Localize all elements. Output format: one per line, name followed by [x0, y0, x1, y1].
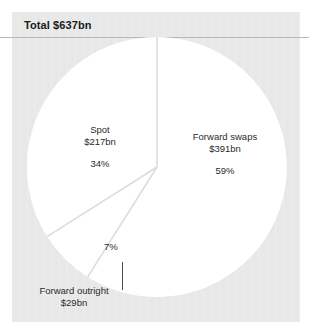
- pie-label-spot-name: Spot: [90, 124, 110, 135]
- pie-label-forward-swaps-name: Forward swaps: [193, 131, 257, 142]
- pie-label-forward-outright-value: $29bn: [61, 297, 87, 308]
- pie-label-forward-outright: Forward outright $29bn: [22, 285, 126, 308]
- pie-label-forward-outright-percent: 7%: [104, 241, 130, 253]
- pie-label-forward-swaps: Forward swaps $391bn 59%: [178, 131, 272, 177]
- pie-label-spot-percent: 34%: [60, 158, 140, 170]
- pie-chart-figure: Total $637bn Spot $217bn 34% Forward swa…: [0, 0, 309, 335]
- pie-label-spot-value: $217bn: [84, 136, 116, 147]
- pie-label-forward-outright-name: Forward outright: [39, 285, 108, 296]
- pie-label-spot: Spot $217bn 34%: [60, 124, 140, 170]
- pie-label-forward-swaps-percent: 59%: [178, 165, 272, 177]
- pie-label-forward-swaps-value: $391bn: [209, 143, 241, 154]
